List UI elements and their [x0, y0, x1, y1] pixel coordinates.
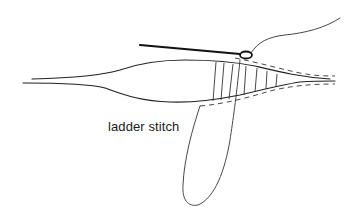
needle-eye: [240, 52, 252, 59]
figure-label: ladder stitch: [108, 119, 179, 134]
needle: [140, 45, 240, 54]
ladder-stitches: [213, 62, 277, 101]
fabric-lower-edge: [23, 81, 335, 106]
ladder-stitch-illustration: [0, 0, 359, 217]
thread-loop: [183, 60, 240, 205]
fabric-upper-edge: [32, 58, 335, 79]
thread-tail: [251, 18, 340, 53]
